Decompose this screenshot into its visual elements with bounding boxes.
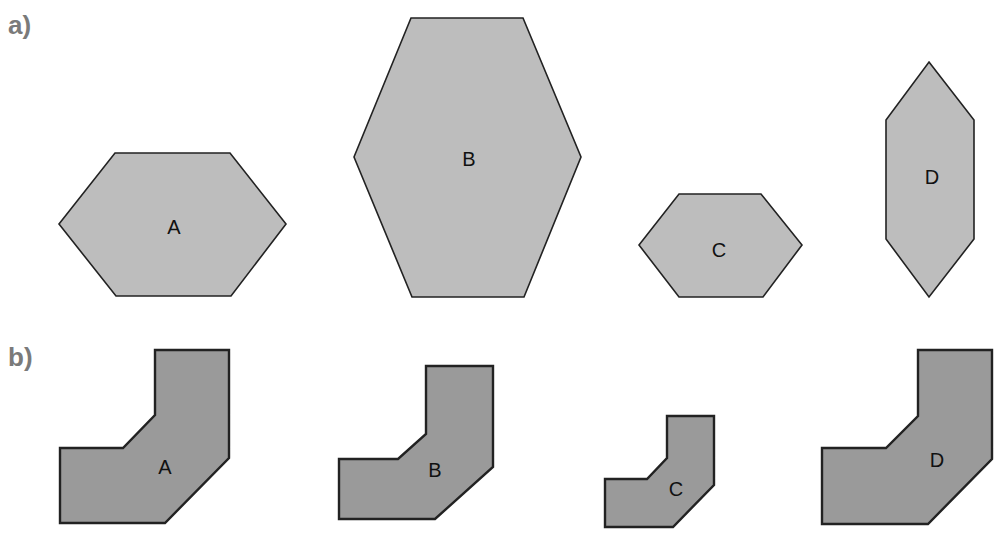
- shape-label: C: [669, 478, 683, 500]
- shape-b-c: [605, 416, 714, 527]
- shape-b-d: [822, 350, 992, 524]
- shape-b-b: [339, 366, 493, 519]
- shape-label: A: [158, 456, 172, 478]
- diagram-canvas: ABCD ABCD: [0, 0, 996, 543]
- shape-label: B: [428, 459, 441, 481]
- panel-b-group: ABCD: [60, 350, 992, 527]
- shape-label: D: [925, 166, 939, 188]
- shape-label: B: [462, 148, 475, 170]
- shape-label: C: [712, 239, 726, 261]
- panel-a-group: ABCD: [59, 18, 974, 297]
- shape-label: A: [167, 216, 181, 238]
- shape-b-a: [60, 350, 229, 523]
- shape-label: D: [930, 449, 944, 471]
